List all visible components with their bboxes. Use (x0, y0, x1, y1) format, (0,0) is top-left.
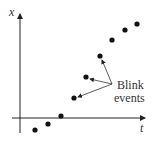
diagram: x t Blink events (0, 0, 163, 146)
data-point (32, 127, 37, 132)
data-point (122, 27, 127, 32)
data-point (83, 74, 88, 79)
data-point (134, 21, 139, 26)
x-axis-label: t (140, 121, 144, 135)
data-points (32, 21, 139, 132)
data-point (58, 113, 63, 118)
data-point (109, 37, 114, 42)
y-axis-label: x (8, 5, 15, 19)
annotation-line2: events (114, 91, 145, 105)
data-point (45, 121, 50, 126)
data-point (97, 53, 102, 58)
arrow-3 (78, 84, 112, 97)
arrow-1 (102, 60, 112, 84)
data-point (71, 95, 76, 100)
arrow-2 (90, 79, 112, 84)
annotation-line1: Blink (117, 78, 144, 92)
